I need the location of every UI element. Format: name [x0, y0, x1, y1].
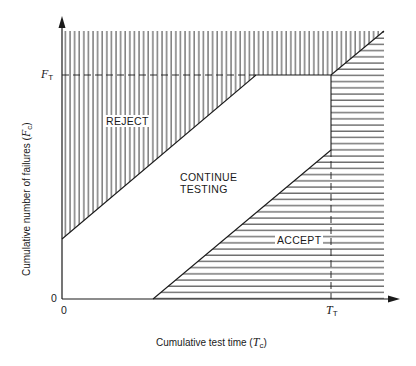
tt-sub: T [333, 309, 338, 318]
x-origin-label: 0 [61, 304, 67, 316]
x-title-suffix: ) [263, 337, 266, 348]
continue-label-line1: CONTINUE [180, 171, 237, 183]
ft-sub: T [48, 73, 53, 82]
y-axis-arrow-icon [59, 16, 66, 28]
continue-testing-label: CONTINUE TESTING [178, 171, 239, 195]
x-axis-title: Cumulative test time (Tc) [156, 336, 267, 352]
y-origin-label: 0 [51, 292, 57, 304]
y-title-var: F [19, 130, 33, 137]
tt-marker-label: TT [326, 304, 338, 320]
y-title-suffix: ) [21, 122, 32, 125]
y-title-prefix: Cumulative number of failures ( [21, 137, 32, 276]
y-axis-title: Cumulative number of failures (Fc) [20, 122, 36, 276]
continue-label-line2: TESTING [180, 183, 237, 195]
x-axis-arrow-icon [388, 296, 400, 303]
accept-label: ACCEPT [275, 234, 323, 246]
ft-marker-label: FT [41, 68, 53, 84]
tt-var: T [326, 303, 333, 317]
reject-label: REJECT [104, 115, 151, 127]
y-title-sub: c [25, 126, 34, 130]
x-title-prefix: Cumulative test time ( [156, 337, 253, 348]
